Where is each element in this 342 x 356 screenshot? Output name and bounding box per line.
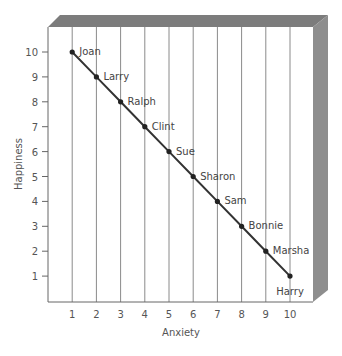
y-tick-label: 7 (32, 122, 38, 133)
y-tick-label: 3 (32, 221, 38, 232)
y-tick-label: 5 (32, 172, 38, 183)
chart: 12345678910 12345678910 JoanLarryRalphCl… (0, 0, 342, 356)
x-tick-label: 4 (142, 309, 148, 320)
data-point (70, 49, 75, 54)
point-label: Harry (276, 286, 304, 297)
point-label: Ralph (128, 96, 156, 107)
data-point (118, 99, 123, 104)
point-label: Sue (176, 146, 195, 157)
point-label: Larry (103, 71, 129, 82)
x-tick-label: 1 (69, 309, 75, 320)
x-axis-title: Anxiety (162, 327, 200, 338)
x-tick-label: 8 (238, 309, 244, 320)
point-label: Sam (224, 195, 246, 206)
data-point (239, 224, 244, 229)
y-tick-label: 10 (25, 47, 38, 58)
x-tick-label: 3 (117, 309, 123, 320)
y-axis-title: Happiness (13, 138, 24, 190)
x-tick-label: 7 (214, 309, 220, 320)
x-tick-label: 6 (190, 309, 196, 320)
y-tick-label: 6 (32, 147, 38, 158)
data-point (287, 274, 292, 279)
data-point (94, 74, 99, 79)
point-label: Sharon (200, 171, 235, 182)
x-axis-ticks: 12345678910 (69, 309, 296, 320)
point-label: Joan (78, 46, 101, 57)
data-point (142, 124, 147, 129)
y-tick-label: 4 (32, 196, 38, 207)
x-tick-label: 9 (263, 309, 269, 320)
frame-shadow-top (48, 15, 328, 27)
frame-shadow-side (313, 15, 328, 302)
data-point (166, 149, 171, 154)
x-tick-label: 2 (93, 309, 99, 320)
data-point (263, 249, 268, 254)
y-tick-label: 9 (32, 72, 38, 83)
point-label: Marsha (273, 245, 310, 256)
data-point (215, 199, 220, 204)
data-point (191, 174, 196, 179)
x-tick-label: 5 (166, 309, 172, 320)
y-tick-label: 8 (32, 97, 38, 108)
y-axis-ticks: 12345678910 (25, 47, 48, 282)
y-tick-label: 2 (32, 246, 38, 257)
point-label: Bonnie (249, 220, 284, 231)
x-tick-label: 10 (284, 309, 297, 320)
point-label: Clint (152, 121, 175, 132)
y-tick-label: 1 (32, 271, 38, 282)
